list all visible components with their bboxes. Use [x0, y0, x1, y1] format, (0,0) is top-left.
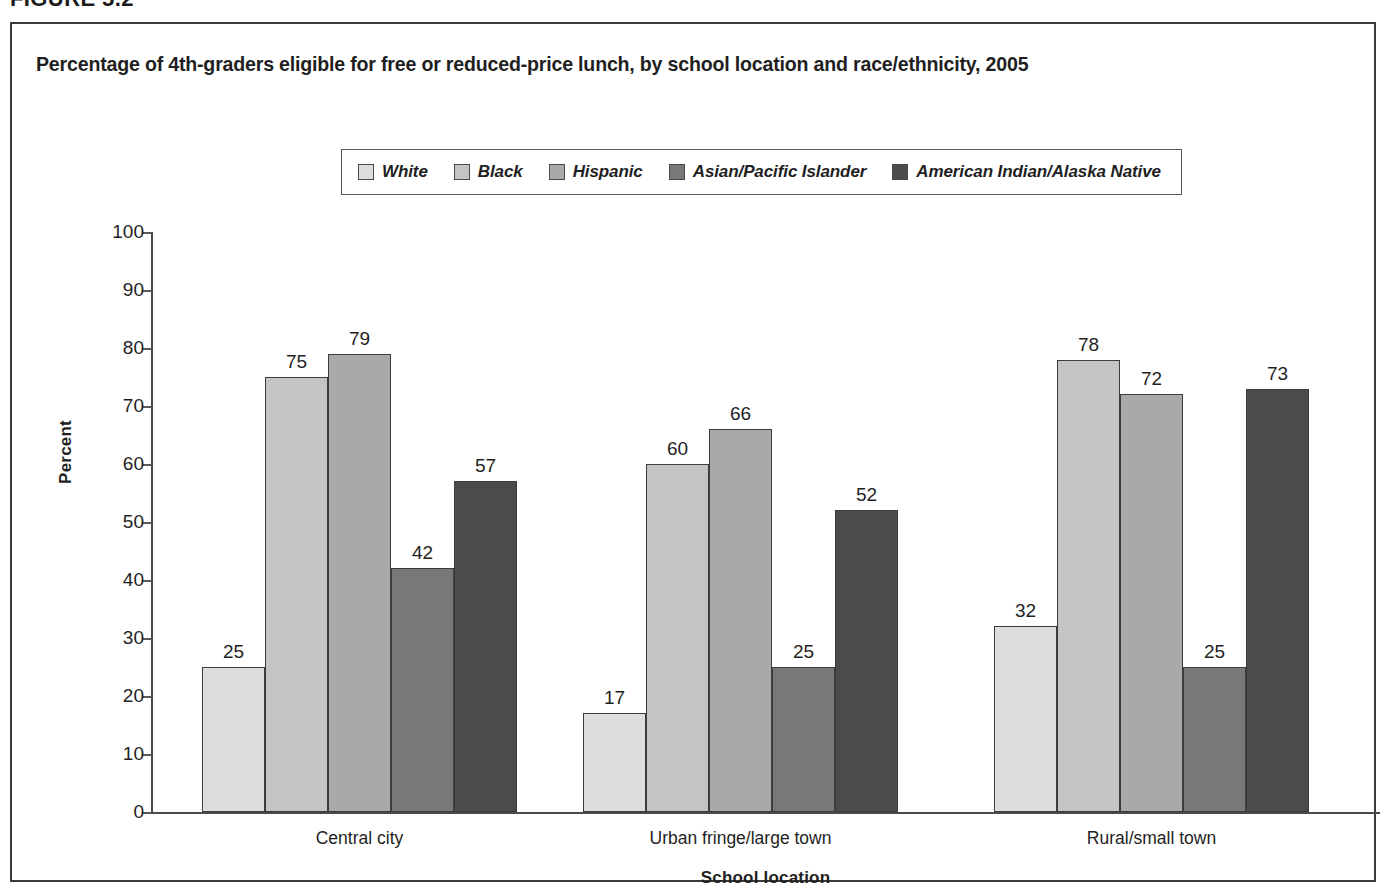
bar[interactable]: 25: [202, 667, 265, 812]
bar-value-label: 32: [1015, 600, 1036, 622]
bar-value-label: 25: [793, 641, 814, 663]
y-axis-title: Percent: [56, 420, 76, 484]
bar[interactable]: 60: [646, 464, 709, 812]
bar-slot: 25: [1183, 232, 1246, 812]
plot-area: 1009080706050403020100 2575794257Central…: [151, 232, 1380, 814]
legend-label: Black: [478, 162, 523, 182]
y-axis-tick-label: 60: [123, 453, 144, 475]
bar-value-label: 52: [856, 484, 877, 506]
bar[interactable]: 73: [1246, 389, 1309, 812]
bar-value-label: 60: [667, 438, 688, 460]
y-axis-line: [151, 232, 153, 814]
y-axis-tick-label: 40: [123, 569, 144, 591]
y-axis-tick-label: 20: [123, 685, 144, 707]
bar-value-label: 25: [223, 641, 244, 663]
bar-group: 2575794257Central city: [202, 232, 517, 812]
legend-label: Hispanic: [573, 162, 643, 182]
x-axis-category-label: Central city: [316, 828, 404, 849]
legend-swatch-icon: [454, 164, 470, 180]
chart-title: Percentage of 4th-graders eligible for f…: [36, 52, 1028, 76]
x-axis-category-label: Rural/small town: [1087, 828, 1216, 849]
bar-slot: 25: [202, 232, 265, 812]
bar[interactable]: 72: [1120, 394, 1183, 812]
bar-value-label: 25: [1204, 641, 1225, 663]
bar-slot: 73: [1246, 232, 1309, 812]
bar[interactable]: 52: [835, 510, 898, 812]
x-axis-title: School location: [701, 868, 831, 887]
y-axis-tick-label: 80: [123, 337, 144, 359]
bar-value-label: 78: [1078, 334, 1099, 356]
bar-slot: 57: [454, 232, 517, 812]
y-axis-tick-label: 0: [133, 801, 144, 823]
legend-item-asian-pacific-islander: Asian/Pacific Islander: [669, 162, 867, 182]
bar-value-label: 75: [286, 351, 307, 373]
chart-legend: WhiteBlackHispanicAsian/Pacific Islander…: [341, 149, 1182, 195]
bar-slot: 72: [1120, 232, 1183, 812]
bar-slot: 32: [994, 232, 1057, 812]
y-axis-tick-label: 70: [123, 395, 144, 417]
bar[interactable]: 66: [709, 429, 772, 812]
legend-swatch-icon: [549, 164, 565, 180]
bar[interactable]: 75: [265, 377, 328, 812]
bar-slot: 75: [265, 232, 328, 812]
y-axis-tick-label: 90: [123, 279, 144, 301]
legend-swatch-icon: [669, 164, 685, 180]
bar[interactable]: 32: [994, 626, 1057, 812]
bar[interactable]: 42: [391, 568, 454, 812]
bar-slot: 42: [391, 232, 454, 812]
bar-group: 1760662552Urban fringe/large town: [583, 232, 898, 812]
bar-slot: 52: [835, 232, 898, 812]
bar-group: 3278722573Rural/small town: [994, 232, 1309, 812]
y-axis-tick-label: 30: [123, 627, 144, 649]
bar[interactable]: 79: [328, 354, 391, 812]
bar-slot: 79: [328, 232, 391, 812]
bar-slot: 78: [1057, 232, 1120, 812]
bar-value-label: 42: [412, 542, 433, 564]
legend-item-black: Black: [454, 162, 523, 182]
legend-item-hispanic: Hispanic: [549, 162, 643, 182]
x-axis-category-label: Urban fringe/large town: [650, 828, 832, 849]
bar[interactable]: 78: [1057, 360, 1120, 812]
bar[interactable]: 17: [583, 713, 646, 812]
y-axis-tick-label: 100: [112, 221, 144, 243]
legend-swatch-icon: [358, 164, 374, 180]
y-axis-tick-label: 50: [123, 511, 144, 533]
y-axis-tick-label: 10: [123, 743, 144, 765]
bar-value-label: 79: [349, 328, 370, 350]
bar-value-label: 73: [1267, 363, 1288, 385]
legend-label: Asian/Pacific Islander: [693, 162, 867, 182]
legend-label: White: [382, 162, 428, 182]
bar-value-label: 17: [604, 687, 625, 709]
bar[interactable]: 25: [1183, 667, 1246, 812]
bar[interactable]: 57: [454, 481, 517, 812]
bar-value-label: 57: [475, 455, 496, 477]
bar-value-label: 72: [1141, 368, 1162, 390]
legend-label: American Indian/Alaska Native: [916, 162, 1161, 182]
figure-panel: Percentage of 4th-graders eligible for f…: [10, 22, 1376, 882]
bar-slot: 17: [583, 232, 646, 812]
legend-item-white: White: [358, 162, 428, 182]
legend-item-american-indian-alaska-native: American Indian/Alaska Native: [892, 162, 1161, 182]
bar-slot: 25: [772, 232, 835, 812]
x-axis-line: [151, 812, 1380, 814]
bar-value-label: 66: [730, 403, 751, 425]
figure-number: FIGURE 5.2: [10, 0, 134, 12]
bar-slot: 60: [646, 232, 709, 812]
legend-swatch-icon: [892, 164, 908, 180]
bar[interactable]: 25: [772, 667, 835, 812]
bar-slot: 66: [709, 232, 772, 812]
